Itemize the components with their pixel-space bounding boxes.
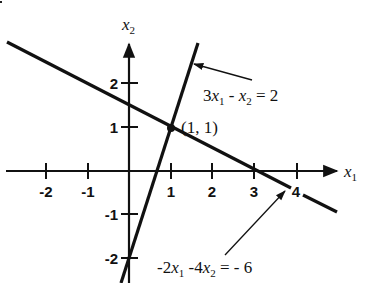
y-axis-label: x2 [121,15,135,36]
line-1-equation: 3x1 - x2 = 2 [203,86,278,107]
line-1 [121,43,198,283]
y-tick-label: -2 [105,250,118,267]
x-tick-label: 2 [208,183,216,200]
x-tick-label: 4 [292,183,301,200]
x-tick-label: 1 [167,183,175,200]
x-tick-label: -2 [39,183,52,200]
line-2-pointer [225,191,285,255]
line-1-pointer [194,64,252,80]
x-axis-label: x1 [343,162,357,183]
diagram-canvas: -2 -1 1 2 3 4 2 1 -1 -2 x1 x2 (1, 1) 3x1… [0,0,367,283]
y-tick-label: 2 [110,75,118,92]
speck-mark [0,1,2,3]
line-2-segment [303,195,337,212]
line-2-segment [7,42,291,188]
y-tick-label: -1 [105,206,118,223]
y-tick-label: 1 [110,119,118,136]
intersection-point [167,124,175,132]
x-tick-label: 3 [250,183,258,200]
x-tick-label: -1 [81,183,94,200]
intersection-label: (1, 1) [181,118,218,137]
line-2-equation: -2x1 -4x2 = - 6 [157,258,252,279]
